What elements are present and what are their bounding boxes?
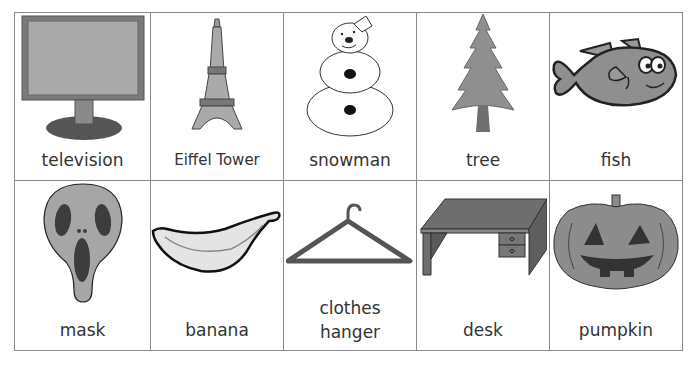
eiffel-tower-icon bbox=[182, 15, 252, 135]
picture-card-grid: television Eiffel Tower bbox=[14, 12, 683, 351]
card-snowman: snowman bbox=[284, 13, 417, 181]
card-clothes-hanger: clothes hanger bbox=[284, 181, 417, 350]
card-television: television bbox=[15, 13, 151, 181]
card-label: television bbox=[15, 148, 150, 172]
television-icon bbox=[18, 10, 148, 140]
card-pumpkin: pumpkin bbox=[550, 181, 682, 350]
card-label: tree bbox=[417, 148, 549, 172]
desk-icon bbox=[419, 195, 547, 285]
card-label: mask bbox=[15, 318, 150, 342]
card-tree: tree bbox=[417, 13, 550, 181]
card-label-line1: clothes bbox=[284, 296, 416, 320]
card-label: Eiffel Tower bbox=[151, 148, 283, 172]
card-banana: banana bbox=[151, 181, 284, 350]
card-label: snowman bbox=[284, 148, 416, 172]
snowman-icon bbox=[300, 10, 400, 140]
card-label: banana bbox=[151, 318, 283, 342]
mask-icon bbox=[38, 178, 128, 308]
card-fish: fish bbox=[550, 13, 682, 181]
pumpkin-icon bbox=[552, 193, 680, 293]
card-mask: mask bbox=[15, 181, 151, 350]
banana-icon bbox=[151, 203, 283, 283]
card-label: clothes hanger bbox=[284, 296, 416, 344]
card-label-line2: hanger bbox=[284, 320, 416, 344]
fish-icon bbox=[550, 25, 682, 125]
tree-icon bbox=[448, 10, 518, 140]
card-desk: desk bbox=[417, 181, 550, 350]
card-label: fish bbox=[550, 148, 682, 172]
clothes-hanger-icon bbox=[286, 201, 414, 271]
card-eiffel-tower: Eiffel Tower bbox=[151, 13, 284, 181]
card-label: desk bbox=[417, 318, 549, 342]
card-label: pumpkin bbox=[550, 318, 682, 342]
